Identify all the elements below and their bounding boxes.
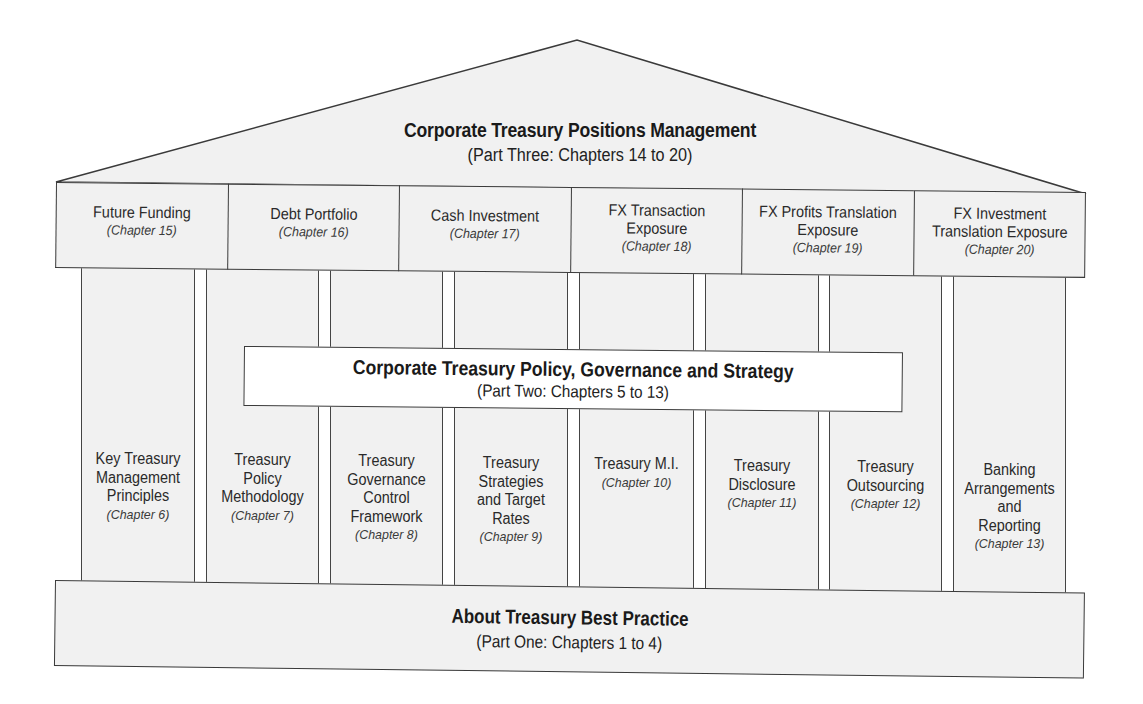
frieze-chapter: (Chapter 18) <box>578 237 735 256</box>
best-practice-foundation: About Treasury Best Practice (Part One: … <box>54 580 1085 679</box>
column-chapter: (Chapter 6) <box>83 506 193 523</box>
frieze-future-funding: Future Funding (Chapter 15) <box>55 182 227 270</box>
banner-subtitle: (Part Two: Chapters 5 to 13) <box>277 378 868 406</box>
column-treasury-disclosure: Treasury Disclosure (Chapter 11) <box>705 270 819 591</box>
frieze-debt-portfolio: Debt Portfolio (Chapter 16) <box>227 184 399 272</box>
column-chapter: (Chapter 11) <box>707 494 817 511</box>
frieze-label: Cash Investment <box>408 206 562 225</box>
column-label: Treasury M.I. <box>582 455 691 474</box>
frieze-chapter: (Chapter 19) <box>749 239 906 258</box>
roof-subtitle: (Part Three: Chapters 14 to 20) <box>274 143 886 167</box>
column-label: Treasury Policy Methodology <box>209 451 316 507</box>
frieze-chapter: (Chapter 17) <box>406 224 563 243</box>
frieze-fx-profits-translation-exposure: FX Profits Translation Exposure (Chapter… <box>741 189 913 277</box>
foundation-title: About Treasury Best Practice <box>451 603 688 632</box>
column-treasury-governance-control-framework: Treasury Governance Control Framework (C… <box>330 265 443 587</box>
treasury-house-diagram: Corporate Treasury Positions Management … <box>0 0 1143 704</box>
frieze-label-line2: Translation Exposure <box>923 222 1077 241</box>
column-chapter: (Chapter 8) <box>332 526 441 543</box>
column-label: Banking Arrangements and Reporting <box>956 461 1063 535</box>
frieze-fx-investment-translation-exposure: FX Investment Translation Exposure (Chap… <box>913 190 1086 278</box>
column-chapter: (Chapter 9) <box>456 528 566 545</box>
column-chapter: (Chapter 13) <box>955 535 1064 552</box>
frieze-label-line1: FX Investment <box>923 204 1077 223</box>
frieze-cash-investment: Cash Investment (Chapter 17) <box>398 185 570 273</box>
positions-frieze: Future Funding (Chapter 15) Debt Portfol… <box>55 182 1086 278</box>
column-treasury-policy-methodology: Treasury Policy Methodology (Chapter 7) <box>206 264 319 585</box>
column-banking-arrangements-reporting: Banking Arrangements and Reporting (Chap… <box>953 273 1066 594</box>
roof-title: Corporate Treasury Positions Management <box>404 117 756 143</box>
column-label: Treasury Governance Control Framework <box>333 452 440 526</box>
column-label: Treasury Strategies and Target Rates <box>457 454 565 528</box>
frieze-label-line2: Exposure <box>751 221 905 240</box>
column-label: Key Treasury Management Principles <box>84 450 192 506</box>
frieze-label: Debt Portfolio <box>237 205 391 224</box>
foundation-subtitle: (Part One: Chapters 1 to 4) <box>117 625 1022 660</box>
column-treasury-mi: Treasury M.I. (Chapter 10) <box>579 268 694 590</box>
frieze-chapter: (Chapter 16) <box>235 223 392 242</box>
column-treasury-strategies-target-rates: Treasury Strategies and Target Rates (Ch… <box>454 267 568 588</box>
column-key-treasury-management-principles: Key Treasury Management Principles (Chap… <box>81 262 195 584</box>
frieze-chapter: (Chapter 15) <box>63 221 220 240</box>
frieze-label-line2: Exposure <box>580 219 734 238</box>
column-chapter: (Chapter 12) <box>831 495 940 512</box>
frieze-label-line1: FX Profits Translation <box>751 203 905 222</box>
column-chapter: (Chapter 10) <box>581 474 692 491</box>
column-label: Treasury Outsourcing <box>832 458 939 495</box>
frieze-fx-transaction-exposure: FX Transaction Exposure (Chapter 18) <box>570 187 742 275</box>
frieze-label: Future Funding <box>65 203 219 222</box>
policy-governance-banner: Corporate Treasury Policy, Governance an… <box>243 346 903 412</box>
frieze-label-line1: FX Transaction <box>580 201 734 220</box>
frieze-chapter: (Chapter 20) <box>921 240 1078 259</box>
roof-label: Corporate Treasury Positions Management … <box>240 117 920 167</box>
column-chapter: (Chapter 7) <box>208 507 317 524</box>
column-label: Treasury Disclosure <box>708 457 816 494</box>
column-treasury-outsourcing: Treasury Outsourcing (Chapter 12) <box>829 271 942 592</box>
